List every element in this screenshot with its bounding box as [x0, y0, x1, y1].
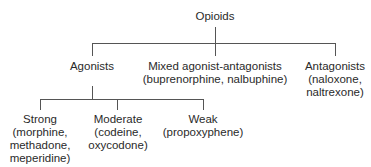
node-moderate: Moderate (codeine, oxycodone) — [80, 113, 156, 152]
node-mixed-agonist-antagonists: Mixed agonist-antagonists (buprenorphine… — [140, 60, 290, 86]
level1-bar — [92, 43, 336, 44]
node-label: Agonists — [52, 60, 132, 73]
node-detail: naltrexone) — [295, 86, 371, 99]
node-label: Antagonists — [295, 60, 371, 73]
node-label: Weak — [160, 113, 246, 126]
node-detail: (codeine, — [80, 126, 156, 139]
node-opioids: Opioids — [175, 10, 255, 23]
node-detail: (naloxone, — [295, 73, 371, 86]
node-agonists: Agonists — [52, 60, 132, 73]
node-detail: (morphine, — [2, 126, 78, 139]
moderate-drop — [117, 99, 118, 110]
root-stem — [215, 27, 216, 43]
level2-bar — [40, 99, 204, 100]
strong-drop — [40, 99, 41, 110]
mixed-drop — [215, 43, 216, 56]
node-weak: Weak (propoxyphene) — [160, 113, 246, 139]
node-label: Opioids — [175, 10, 255, 23]
node-label: Moderate — [80, 113, 156, 126]
node-detail: meperidine) — [2, 152, 78, 165]
agonists-drop — [92, 43, 93, 56]
node-label: Mixed agonist-antagonists — [140, 60, 290, 73]
node-antagonists: Antagonists (naloxone, naltrexone) — [295, 60, 371, 99]
weak-drop — [203, 99, 204, 110]
node-detail: methadone, — [2, 139, 78, 152]
node-strong: Strong (morphine, methadone, meperidine) — [2, 113, 78, 165]
antagonists-drop — [335, 43, 336, 56]
node-detail: (propoxyphene) — [160, 126, 246, 139]
node-label: Strong — [2, 113, 78, 126]
agonists-stem — [92, 86, 93, 99]
node-detail: (buprenorphine, nalbuphine) — [140, 73, 290, 86]
node-detail: oxycodone) — [80, 139, 156, 152]
